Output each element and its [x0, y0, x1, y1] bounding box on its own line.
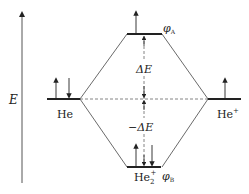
- electron-arrows: [56, 13, 225, 166]
- he-plus-label: He+: [217, 107, 239, 121]
- mo-energy-diagram: E He He+ He2+ φA φB: [0, 0, 249, 194]
- energy-axis-label: E: [8, 93, 18, 107]
- he-label: He: [57, 108, 73, 121]
- minus-delta-e-label: −ΔE: [128, 121, 153, 134]
- phi-b-label: φB: [162, 170, 175, 183]
- reference-dashes: [80, 36, 208, 165]
- delta-e-label: ΔE: [135, 63, 152, 76]
- he2-plus-label: He2+: [134, 169, 157, 186]
- phi-a-label: φA: [163, 22, 176, 35]
